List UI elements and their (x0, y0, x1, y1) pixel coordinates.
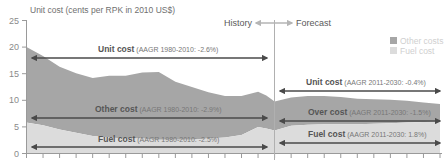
y-tick-label: 20 (9, 42, 19, 52)
history-unit-annotation: Unit cost (AAGR 1980-2010: -2.6%) (98, 44, 218, 54)
history-fuel-annotation: Fuel cost (AAGR 1980-2010: -2.5%) (98, 134, 219, 144)
history-other-annotation: Other cost (AAGR 1980-2010: -2.9%) (95, 104, 222, 114)
y-tick-label: 10 (9, 95, 19, 105)
legend-swatch-other (390, 37, 397, 44)
forecast-unit-annotation: Unit cost (AAGR 2011-2030: -0.4%) (306, 77, 426, 87)
y-tick-label: 0 (14, 149, 19, 159)
y-tick-label: 5 (14, 122, 19, 132)
history-label: History (224, 18, 253, 28)
y-axis-title: Unit cost (cents per RPK in 2010 US$) (30, 5, 175, 15)
unit-cost-area-chart: Unit cost (cents per RPK in 2010 US$) 05… (0, 0, 448, 168)
x-axis-ticks (27, 154, 441, 159)
y-tick-label: 25 (9, 16, 19, 26)
legend-label-fuel: Fuel cost (400, 46, 435, 56)
forecast-other-annotation: Over cost (AAGR 2011-2030: -1.5%) (308, 107, 431, 117)
forecast-label: Forecast (296, 18, 332, 28)
y-axis-ticks: 0510152025 (9, 16, 27, 159)
y-tick-label: 15 (9, 69, 19, 79)
legend-swatch-fuel (390, 47, 397, 54)
forecast-fuel-annotation: Fuel cost (AAGR 2011-2030: 1.8%) (308, 129, 427, 139)
legend-label-other: Other costs (400, 36, 443, 46)
